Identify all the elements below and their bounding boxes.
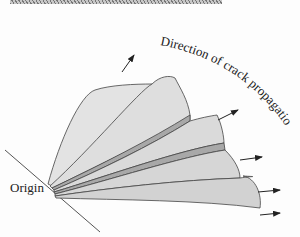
- arrow-icon: [260, 213, 280, 215]
- crack-propagation-diagram: Direction of crack propagation Origin: [0, 0, 300, 237]
- arrow-icon: [240, 157, 262, 160]
- arrow-icon: [258, 190, 280, 192]
- arrow-icon: [122, 55, 134, 72]
- arrow-icon: [218, 110, 238, 120]
- diagram-svg: Direction of crack propagation Origin: [0, 0, 300, 237]
- origin-label: Origin: [10, 180, 44, 195]
